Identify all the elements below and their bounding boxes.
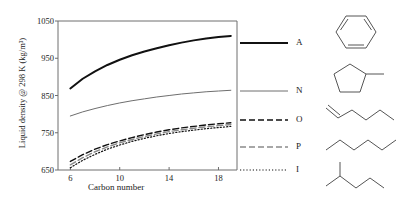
straight-alkane-chain-icon (318, 132, 409, 160)
x-tick-label: 6 (58, 173, 82, 183)
alkene-chain-icon (318, 102, 409, 132)
legend-swatch-paraffins (240, 140, 290, 154)
data-curves (70, 36, 230, 168)
x-tick-label: 18 (206, 173, 230, 183)
series-line-N (70, 90, 230, 116)
legend-label-N: N (296, 85, 303, 95)
legend-swatch-naphthenes (240, 84, 290, 98)
legend-item-N[interactable]: N (240, 84, 320, 98)
legend-label-P: P (296, 141, 301, 151)
legend-item-A[interactable]: A (240, 36, 320, 50)
legend: ANOPI (240, 0, 320, 200)
legend-item-P[interactable]: P (240, 140, 320, 154)
legend-item-O[interactable]: O (240, 113, 320, 127)
x-tick-label: 10 (108, 173, 132, 183)
x-axis-label: Carbon number (88, 182, 144, 192)
molecular-structures (318, 0, 409, 200)
chart-area: Liquid density @ 298 K (kg/m³) Carbon nu… (0, 0, 250, 200)
legend-swatch-aromatics (240, 36, 290, 50)
y-tick-label: 750 (30, 128, 54, 138)
figure-root: Liquid density @ 298 K (kg/m³) Carbon nu… (0, 0, 409, 200)
y-tick-label: 950 (30, 53, 54, 63)
legend-label-I: I (296, 164, 299, 174)
legend-item-I[interactable]: I (240, 163, 320, 177)
axes-spines (58, 21, 237, 170)
benzene-ring-icon (318, 8, 409, 56)
branched-alkane-chain-icon (318, 158, 409, 200)
y-tick-label: 650 (30, 165, 54, 175)
series-line-A (70, 36, 230, 89)
y-tick-label: 1050 (30, 16, 54, 26)
legend-label-A: A (296, 37, 303, 47)
legend-swatch-olefins (240, 113, 290, 127)
legend-label-O: O (296, 114, 303, 124)
y-tick-label: 850 (30, 91, 54, 101)
series-line-O (70, 123, 230, 162)
y-axis-label: Liquid density @ 298 K (kg/m³) (17, 23, 27, 163)
series-line-P (70, 125, 230, 165)
methylcyclopentane-ring-icon (318, 58, 409, 100)
legend-swatch-isoparaffins (240, 163, 290, 177)
x-tick-label: 14 (157, 173, 181, 183)
